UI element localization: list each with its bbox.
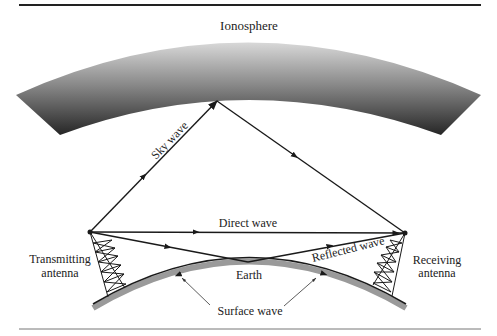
transmitting-tower-icon xyxy=(90,232,126,297)
sky-wave-down-path xyxy=(217,101,405,233)
receiver-point xyxy=(403,231,408,236)
surface-wave-pointer-right xyxy=(284,278,316,306)
ionosphere-band xyxy=(16,43,481,136)
radio-propagation-diagram: Ionosphere Sky wave Direct wave Reflecte… xyxy=(0,0,497,336)
ionosphere-label: Ionosphere xyxy=(220,18,278,33)
transmitter-point xyxy=(88,230,93,235)
sky-wave-label: Sky wave xyxy=(148,119,191,163)
surface-wave-label: Surface wave xyxy=(218,304,283,318)
surface-wave-pointer-left xyxy=(182,278,210,305)
transmitting-antenna-label-line1: Transmitting xyxy=(29,252,91,266)
transmitting-antenna-label-line2: antenna xyxy=(41,266,79,280)
sky-wave-up-path xyxy=(90,101,217,232)
receiving-antenna-label-line1: Receiving xyxy=(413,253,462,267)
reflected-wave-label: Reflected wave xyxy=(310,233,385,265)
direct-wave-path xyxy=(90,232,405,233)
direct-wave-label: Direct wave xyxy=(219,216,277,230)
earth-label: Earth xyxy=(236,268,262,282)
receiving-antenna-label-line2: antenna xyxy=(418,266,456,280)
